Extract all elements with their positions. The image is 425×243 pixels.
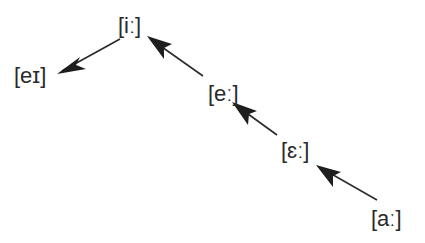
- node-long-open-e: [ɛː]: [281, 139, 309, 163]
- arrowhead-icon: [147, 36, 172, 59]
- arrow-ee-to-ii: [147, 36, 203, 76]
- arrow-eps-to-ee: [232, 102, 277, 135]
- node-long-e: [eː]: [208, 82, 239, 106]
- arrows-layer: [0, 0, 425, 243]
- arrowhead-icon: [316, 165, 341, 187]
- arrow-ii-to-ei: [57, 39, 120, 74]
- node-long-a: [aː]: [371, 207, 402, 231]
- node-long-i: [iː]: [118, 14, 141, 38]
- arrow-aa-to-eps: [316, 165, 377, 200]
- node-diphthong-ei: [eɪ]: [14, 64, 46, 88]
- vowel-shift-diagram: [iː] [eɪ] [eː] [ɛː] [aː]: [0, 0, 425, 243]
